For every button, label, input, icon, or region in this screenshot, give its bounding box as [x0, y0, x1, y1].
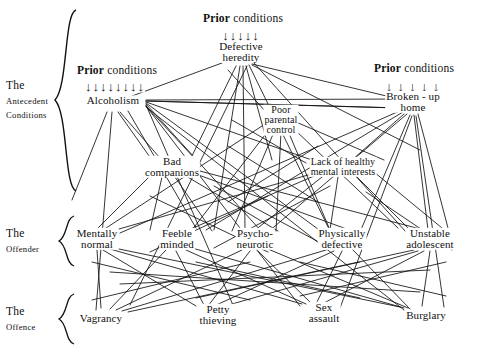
- band-offence-line1: The: [6, 305, 25, 317]
- node-petty-thieving-line1: Petty: [206, 303, 229, 315]
- node-psycho-neurotic[interactable]: Psycho- neurotic: [236, 228, 275, 250]
- prior-conditions-bold-alcoholism: Prior: [77, 64, 104, 76]
- node-lack-of-healthy-mental-interests[interactable]: Lack of healthy mental interests: [310, 157, 377, 177]
- node-unstable-adolescent[interactable]: Unstable adolescent: [405, 228, 454, 250]
- node-mentally-normal[interactable]: Mentally normal: [76, 228, 119, 250]
- band-label-offender: The Offender: [6, 226, 39, 255]
- node-sex-assault-line2: assault: [309, 313, 340, 324]
- node-vagrancy-line1: Vagrancy: [80, 312, 122, 324]
- band-antecedent-line1: The: [6, 79, 25, 91]
- band-antecedent-line3: Conditions: [6, 110, 47, 120]
- prior-conditions-bold-broken-home: Prior: [374, 62, 401, 74]
- diagram-canvas: The Antecedent Conditions The Offender T…: [0, 0, 480, 349]
- prior-conditions-label-alcoholism: Prior conditions: [77, 64, 157, 76]
- node-bad-companions-line1: Bad: [163, 155, 181, 167]
- node-physically-defective[interactable]: Physically defective: [318, 228, 367, 250]
- node-broken-up-home[interactable]: Broken - up home: [385, 91, 441, 113]
- node-feeble-minded-line1: Feeble: [162, 227, 192, 239]
- node-feeble-minded[interactable]: Feeble minded: [159, 228, 195, 250]
- prior-conditions-bold-heredity: Prior: [203, 12, 230, 24]
- node-psycho-neurotic-line1: Psycho-: [237, 227, 273, 239]
- node-physically-defective-line1: Physically: [319, 227, 366, 239]
- prior-conditions-regular-alcoholism: conditions: [104, 64, 157, 76]
- node-sex-assault[interactable]: Sex assault: [308, 302, 341, 324]
- node-burglary-line1: Burglary: [406, 309, 446, 321]
- node-unstable-adolescent-line2: adolescent: [406, 239, 453, 250]
- band-antecedent-line2: Antecedent: [6, 96, 48, 106]
- node-mentally-normal-line2: normal: [77, 239, 118, 250]
- prior-conditions-regular-heredity: conditions: [230, 12, 283, 24]
- brace-antecedent-conditions: [52, 8, 78, 194]
- node-vagrancy[interactable]: Vagrancy: [79, 313, 123, 324]
- band-offender-line1: The: [6, 227, 25, 239]
- prior-conditions-label-heredity: Prior conditions: [203, 12, 283, 24]
- node-bad-companions-line2: companions: [145, 167, 199, 178]
- node-bad-companions[interactable]: Bad companions: [144, 156, 200, 178]
- band-label-antecedent-conditions: The Antecedent Conditions: [6, 78, 48, 122]
- node-defective-heredity-line1: Defective: [219, 40, 263, 52]
- node-broken-up-home-line2: home: [386, 102, 440, 113]
- node-defective-heredity-line2: heredity: [219, 52, 263, 63]
- band-label-offence: The Offence: [6, 304, 36, 333]
- arrows-icon-alcoholism: ↓↓↓↓↓↓↓↓: [85, 80, 145, 93]
- node-alcoholism[interactable]: Alcoholism: [86, 95, 140, 106]
- band-offence-line2: Offence: [6, 322, 36, 332]
- node-feeble-minded-line2: minded: [160, 239, 194, 250]
- node-alcoholism-line1: Alcoholism: [87, 94, 139, 106]
- brace-offender: [56, 214, 76, 268]
- prior-conditions-regular-broken-home: conditions: [401, 62, 454, 74]
- node-mentally-normal-line1: Mentally: [77, 227, 118, 239]
- node-poor-parental-control[interactable]: Poor parental control: [263, 105, 298, 136]
- node-poor-parental-control-line3: control: [264, 125, 297, 135]
- node-petty-thieving[interactable]: Petty thieving: [199, 304, 238, 326]
- brace-offence: [56, 292, 76, 346]
- node-broken-up-home-line1: Broken - up: [386, 90, 440, 102]
- node-burglary[interactable]: Burglary: [405, 310, 447, 321]
- node-defective-heredity[interactable]: Defective heredity: [218, 41, 264, 63]
- node-sex-assault-line1: Sex: [316, 301, 333, 313]
- node-psycho-neurotic-line2: neurotic: [237, 239, 274, 250]
- node-physically-defective-line2: defective: [319, 239, 366, 250]
- node-petty-thieving-line2: thieving: [200, 315, 237, 326]
- band-offender-line2: Offender: [6, 244, 39, 254]
- node-lack-healthy-line2: mental interests: [311, 167, 376, 177]
- node-unstable-adolescent-line1: Unstable: [410, 227, 450, 239]
- prior-conditions-label-broken-home: Prior conditions: [374, 62, 454, 74]
